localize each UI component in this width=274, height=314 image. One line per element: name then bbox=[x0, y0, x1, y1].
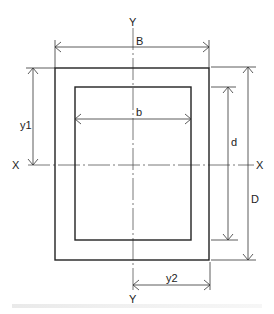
dimension-d bbox=[211, 87, 238, 240]
label-D: D bbox=[251, 193, 259, 205]
label-y2: y2 bbox=[166, 272, 178, 284]
dimension-D bbox=[211, 67, 256, 260]
outer-rectangle bbox=[55, 68, 209, 260]
label-x-right: X bbox=[256, 159, 264, 171]
label-b: b bbox=[136, 106, 142, 118]
label-y-top: Y bbox=[129, 16, 137, 28]
dimension-y1 bbox=[26, 68, 55, 165]
label-x-left: X bbox=[12, 159, 20, 171]
label-y1: y1 bbox=[20, 119, 32, 131]
dimension-B bbox=[55, 40, 209, 68]
label-d: d bbox=[231, 136, 237, 148]
section-diagram: B b y1 d D y2 Y Y X X bbox=[0, 0, 274, 314]
caption-faint bbox=[12, 304, 262, 308]
label-B: B bbox=[136, 35, 143, 47]
